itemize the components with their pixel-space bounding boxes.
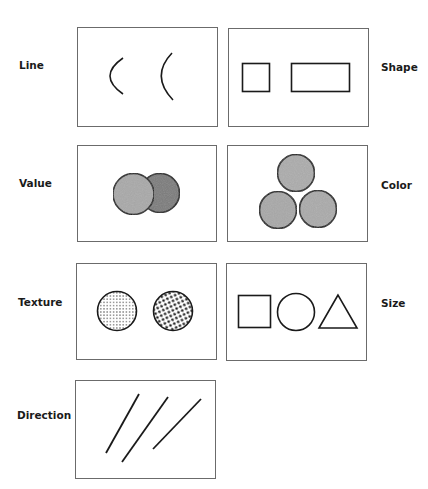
arc-tall [161, 53, 173, 100]
color-circle-left [260, 192, 297, 229]
elements-diagram [0, 0, 428, 489]
square-shape [243, 64, 270, 92]
size-square [239, 296, 271, 328]
panel-direction [76, 381, 216, 479]
coarse-texture-circle [154, 292, 193, 331]
size-triangle [319, 295, 357, 328]
color-circle-top [278, 155, 315, 192]
panel-frame [78, 28, 218, 127]
panel-size [227, 264, 367, 361]
panel-color [228, 146, 368, 242]
fine-texture-circle [98, 292, 137, 331]
panel-frame [229, 29, 369, 127]
panel-line [78, 28, 218, 127]
rectangle-shape [292, 64, 350, 92]
panel-texture [77, 264, 217, 360]
panel-frame [227, 264, 367, 361]
arc-shallow [110, 58, 123, 94]
size-circle [278, 294, 315, 331]
direction-line-middle [122, 397, 168, 462]
color-circle-right [300, 191, 337, 228]
light-value-circle [113, 174, 154, 215]
panel-value [78, 146, 217, 242]
panel-shape [229, 29, 369, 127]
